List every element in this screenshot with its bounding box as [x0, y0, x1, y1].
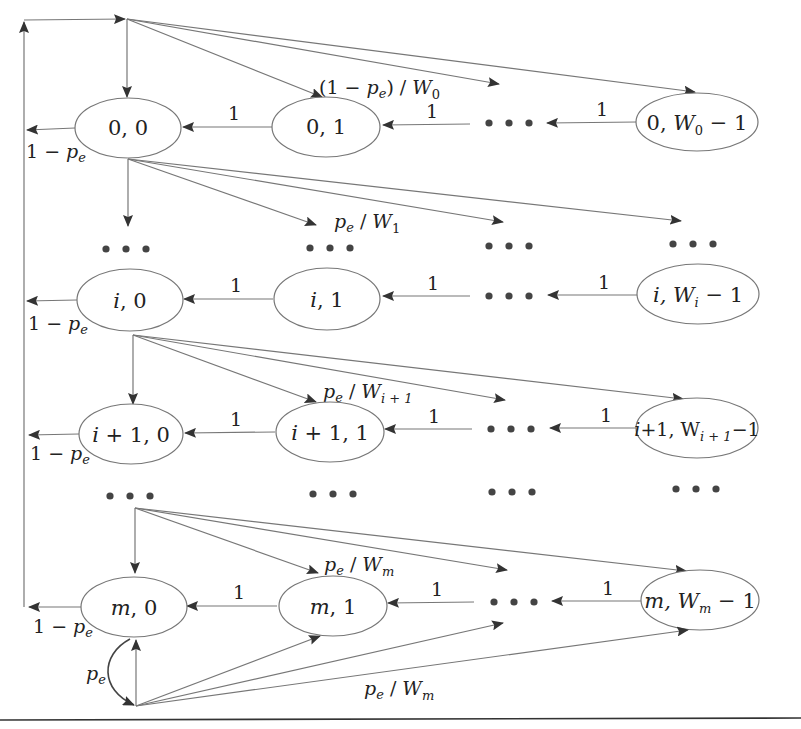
edge-label-1: 1: [230, 274, 242, 296]
state-i1-0-label: i + 1, 0: [92, 423, 170, 447]
edge-label-1: 1: [427, 272, 439, 294]
edge-label-1: 1: [602, 577, 614, 599]
ellipsis-row-between-0-and-i: [102, 240, 716, 252]
fanout-prob-label-bottom: pe / Wm: [364, 677, 434, 703]
state-0-1-label: 0, 1: [306, 115, 346, 139]
pe-loop-label: pe: [86, 662, 106, 687]
row1-fanout-edges: pe / W1: [128, 159, 681, 236]
state-i-0-label: i, 0: [113, 289, 146, 313]
edge-label-1: 1: [428, 405, 440, 427]
ellipsis-row-m: [490, 598, 537, 605]
success-prob-label: 1 − pe: [26, 140, 86, 165]
state-i-1-label: i, 1: [310, 288, 343, 312]
edge-label-1: 1: [600, 404, 612, 426]
success-prob-label: 1 − pe: [30, 442, 90, 467]
fanout-prob-label-row1: pe / W1: [334, 210, 400, 236]
state-0-0-label: 0, 0: [108, 116, 148, 140]
ellipsis-row-between-i1-and-m: [106, 485, 719, 499]
edge-label-1: 1: [233, 581, 245, 603]
ellipsis-row-i1: [487, 425, 534, 432]
row-i-plus-1: i + 1, 0 i + 1, 1 i+1, Wi + 1−1 1 1 1 1 …: [29, 398, 760, 467]
row-i1-fanout-edges: pe / Wi + 1: [133, 335, 683, 406]
success-prob-label: 1 − pe: [28, 312, 88, 337]
row-m: m, 0 m, 1 m, Wm − 1 1 1 1 1 − pe: [29, 570, 759, 640]
success-prob-label: 1 − pe: [33, 615, 93, 640]
edge-label-1: 1: [228, 102, 240, 124]
markov-chain-diagram: 0, 0 0, 1 0, W0 − 1 1 1 1 1 − pe (1 − pe…: [0, 0, 801, 729]
fanout-prob-label-row-m: pe / Wm: [324, 553, 394, 579]
row-i: i, 0 i, 1 i, Wi − 1 1 1 1 1 − pe: [27, 264, 759, 337]
bottom-loop-edges: pe pe / Wm: [86, 623, 688, 706]
edge-label-1: 1: [598, 271, 610, 293]
ellipsis-row-i: [485, 292, 532, 299]
edge-label-1: 1: [230, 408, 242, 430]
row-m-fanout-edges: pe / Wm: [135, 508, 686, 579]
ellipsis-row0: [485, 119, 532, 126]
state-m-0-label: m, 0: [111, 596, 158, 620]
state-m-1-label: m, 1: [310, 595, 357, 619]
row-0: 0, 0 0, 1 0, W0 − 1 1 1 1 1 − pe (1 − pe…: [26, 76, 758, 165]
edge-label-1: 1: [596, 98, 608, 120]
bottom-rule-divider: [0, 718, 801, 720]
edge-label-1: 1: [426, 100, 438, 122]
state-i-wi-minus-1-label: i, Wi − 1: [653, 283, 743, 310]
state-i1-1-label: i + 1, 1: [291, 421, 369, 445]
edge-label-1: 1: [431, 578, 443, 600]
